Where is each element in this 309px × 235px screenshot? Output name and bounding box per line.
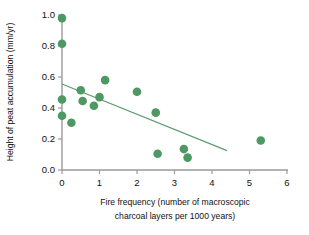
data-point <box>95 93 104 102</box>
trend-line-group <box>62 84 227 151</box>
data-point <box>90 101 99 110</box>
data-point <box>67 118 76 127</box>
data-point <box>76 86 85 95</box>
y-tick-label: 0.4 <box>42 102 55 113</box>
x-tick-label: 4 <box>209 177 214 188</box>
x-tick-label: 1 <box>97 177 102 188</box>
y-axis-title: Height of peat accumulation (mm/yr) <box>5 23 15 162</box>
y-tick-label: 1.0 <box>42 9 55 20</box>
scatter-chart: 0.00.20.40.60.81.0 0123456 Height of pea… <box>0 0 309 235</box>
x-tick-label: 0 <box>59 177 64 188</box>
data-point <box>58 39 67 48</box>
x-axis-title-line2: charcoal layers per 1000 years) <box>115 211 236 221</box>
data-point <box>101 76 110 85</box>
chart-canvas: 0.00.20.40.60.81.0 0123456 Height of pea… <box>0 0 309 235</box>
data-point <box>58 14 67 23</box>
y-tick-label: 0.8 <box>42 40 55 51</box>
data-point <box>183 153 192 162</box>
x-axis-title-group: Fire frequency (number of macroscopic ch… <box>100 197 250 221</box>
data-point <box>256 136 265 145</box>
y-axis-title-group: Height of peat accumulation (mm/yr) <box>5 23 15 162</box>
y-tick-label: 0.2 <box>42 133 55 144</box>
trend-line <box>62 84 227 151</box>
y-tick-label: 0.0 <box>42 164 55 175</box>
data-point <box>78 97 87 106</box>
x-tick-label: 2 <box>134 177 139 188</box>
data-point <box>151 108 160 117</box>
x-tick-labels: 0123456 <box>59 177 289 188</box>
x-axis-title-line1: Fire frequency (number of macroscopic <box>100 197 250 207</box>
y-tick-label: 0.6 <box>42 71 55 82</box>
x-tick-label: 6 <box>284 177 289 188</box>
data-point <box>58 95 67 104</box>
data-point <box>180 145 189 154</box>
y-tick-labels: 0.00.20.40.60.81.0 <box>42 9 55 175</box>
data-point <box>58 111 67 120</box>
x-tick-label: 5 <box>247 177 252 188</box>
data-point <box>133 87 142 96</box>
x-tick-label: 3 <box>172 177 177 188</box>
data-points <box>58 14 265 162</box>
data-point <box>153 149 162 158</box>
